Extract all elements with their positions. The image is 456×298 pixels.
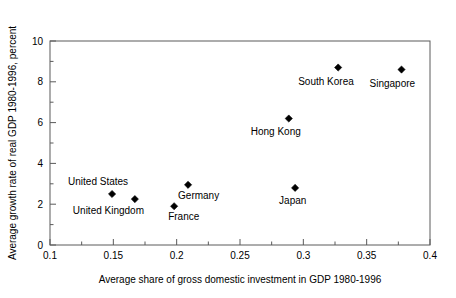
- data-point-marker[interactable]: [184, 181, 191, 188]
- y-axis-ticks: [50, 41, 56, 245]
- data-point-marker[interactable]: [398, 66, 405, 73]
- scatter-chart-figure: 0.10.150.20.250.30.350.4 0246810 United …: [0, 0, 456, 298]
- data-point-labels: United StatesUnited KingdomFranceGermany…: [68, 76, 415, 223]
- x-axis-title: Average share of gross domestic investme…: [99, 274, 382, 285]
- data-point-marker[interactable]: [171, 203, 178, 210]
- data-point-label: Singapore: [370, 78, 416, 89]
- data-point-marker[interactable]: [292, 184, 299, 191]
- x-axis-tick-label: 0.1: [43, 250, 57, 261]
- x-axis-ticks: [50, 239, 430, 245]
- x-axis-tick-label: 0.25: [230, 250, 250, 261]
- x-axis-tick-label: 0.2: [170, 250, 184, 261]
- y-axis-tick-label: 8: [37, 76, 43, 87]
- data-point-label: Germany: [178, 190, 219, 201]
- data-point-label: Japan: [279, 195, 306, 206]
- data-point-label: South Korea: [298, 76, 354, 87]
- y-axis-tick-label: 6: [37, 117, 43, 128]
- data-point-marker[interactable]: [285, 115, 292, 122]
- data-point-label: United States: [68, 176, 128, 187]
- y-axis-tick-label: 4: [37, 158, 43, 169]
- y-axis-tick-labels: 0246810: [32, 36, 44, 251]
- x-axis-tick-label: 0.3: [296, 250, 310, 261]
- scatter-plot-canvas: 0.10.150.20.250.30.350.4 0246810 United …: [0, 0, 456, 298]
- data-point-series: [108, 64, 405, 210]
- x-axis-tick-labels: 0.10.150.20.250.30.350.4: [43, 250, 437, 261]
- data-point-marker[interactable]: [108, 190, 115, 197]
- data-point-marker[interactable]: [335, 64, 342, 71]
- y-axis-tick-label: 10: [32, 36, 44, 47]
- y-axis-title: Average growth rate of real GDP 1980-199…: [7, 26, 18, 260]
- y-axis-tick-label: 2: [37, 199, 43, 210]
- x-axis-tick-label: 0.15: [104, 250, 124, 261]
- data-point-label: Hong Kong: [251, 126, 301, 137]
- data-point-label: United Kingdom: [73, 205, 144, 216]
- data-point-label: France: [168, 211, 200, 222]
- x-axis-tick-label: 0.35: [357, 250, 377, 261]
- data-point-marker[interactable]: [131, 196, 138, 203]
- y-axis-tick-label: 0: [37, 240, 43, 251]
- x-axis-tick-label: 0.4: [423, 250, 437, 261]
